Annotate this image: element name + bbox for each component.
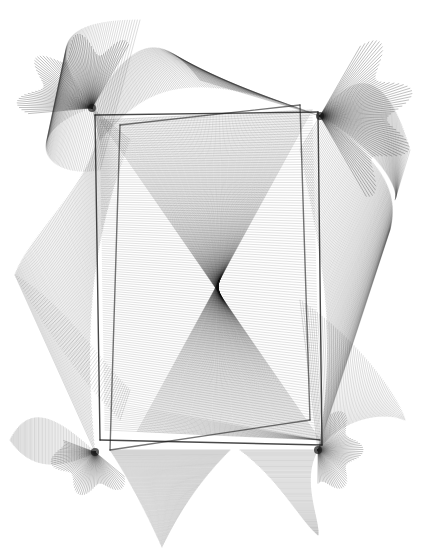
fan-vortex-center	[88, 104, 96, 112]
fan-vortex-center	[316, 112, 324, 120]
generative-line-art	[0, 0, 422, 557]
fan-vortex-center	[91, 448, 99, 456]
fan-vortex-center	[314, 446, 322, 454]
artwork-canvas	[0, 0, 422, 557]
